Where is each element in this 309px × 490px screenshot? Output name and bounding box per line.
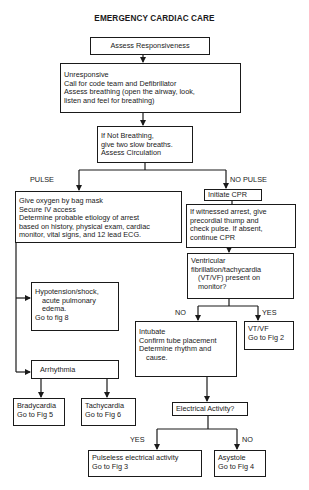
node-vtvf-question: Ventricular fibrillation/tachycardia (VT… [187,253,294,299]
node-text: Assess Circulation [101,149,189,158]
node-pulse-care: Give oxygen by bag mask Secure IV access… [15,191,182,243]
node-text: Electrical Activity? [176,405,244,414]
node-text: continue CPR [190,234,292,243]
edge-label-ea-yes: YES [130,435,145,444]
node-initiate-cpr: Initiate CPR [204,189,262,201]
node-asystole: Asystole Go to Fig 4 [214,450,266,477]
edge-label-ea-no: NO [242,435,253,444]
node-text: Assess Responsiveness [94,42,206,51]
node-text: Go to Fig 5 [17,411,61,420]
node-text: Go to Fig 2 [248,334,290,343]
edge-label-vtvf-yes: YES [262,308,277,317]
node-text: Initiate CPR [208,191,258,200]
node-text: Go to Fig 6 [85,411,132,420]
edge-label-vtvf-no: NO [175,308,186,317]
node-text: Go to Fig 4 [218,463,262,472]
node-text: listen and feel for breathing) [64,97,237,106]
node-not-breathing: If Not Breathing, give two slow breaths.… [97,126,193,163]
node-arrhythmia: Arrhythmia [31,360,119,379]
node-text: Arrhythmia [40,366,115,375]
node-tachycardia: Tachycardia Go to Fig 6 [81,398,136,426]
node-text: Go to fig 8 [35,314,115,323]
node-text: monitor, vital signs, and 12 lead ECG. [19,231,178,240]
node-hypotension: Hypotension/shock, acute pulmonary edema… [31,282,119,331]
node-witnessed-arrest: If witnessed arrest, give precordial thu… [186,204,296,248]
node-text: Go to Fig 3 [92,463,198,472]
node-text: cause. [139,354,233,363]
node-vtvf-result: VT/VF Go to Fig 2 [244,321,294,350]
node-electrical-activity: Electrical Activity? [172,402,248,416]
edge-label-pulse: PULSE [30,175,54,184]
node-bradycardia: Bradycardia Go to Fig 5 [13,398,65,426]
node-intubate: Intubate Confirm tube placement Determin… [135,321,237,377]
node-text: monitor? [191,283,290,292]
edge-label-no-pulse: NO PULSE [230,175,267,184]
node-unresponsive: Unresponsive Call for code team and Defi… [60,63,241,113]
node-pea: Pulseless electrical activity Go to Fig … [88,450,202,477]
node-assess-responsiveness: Assess Responsiveness [90,37,210,55]
